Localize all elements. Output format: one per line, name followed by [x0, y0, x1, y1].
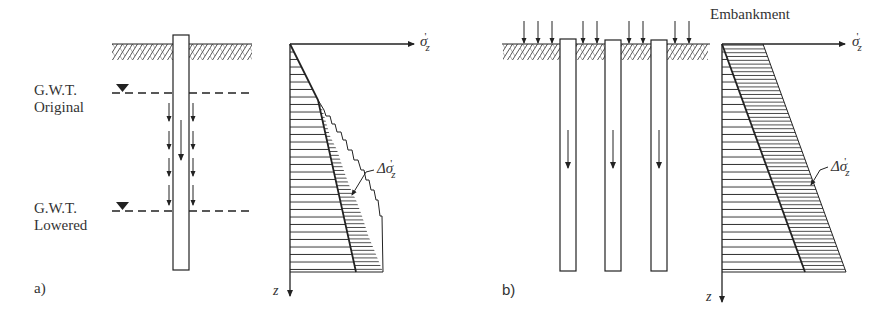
panel-b-label: b) — [502, 281, 515, 298]
sigma-axis-label: σ'z — [420, 33, 430, 51]
soil-hatch-right — [189, 44, 252, 60]
sigma-axis-label: σ'z — [852, 33, 862, 51]
gwt-lowered-label: G.W.T. Lowered — [34, 200, 87, 234]
delta-sigma-label: Δσ'z — [831, 158, 849, 176]
z-axis-label: z — [706, 288, 711, 305]
delta-leader-line — [352, 170, 374, 195]
panel-b-stress-chart — [722, 44, 846, 302]
z-axis-label: z — [273, 282, 278, 299]
initial-stress-region — [290, 44, 356, 272]
pile-settlement-arrows — [568, 130, 659, 168]
panel-a-soil-profile — [112, 35, 252, 270]
embankment-label: Embankment — [710, 6, 790, 23]
gwt-original-label: G.W.T. Original — [34, 82, 84, 116]
diagram-canvas — [0, 0, 886, 319]
water-table-triangle-icon — [116, 202, 129, 210]
panel-b-soil-profile — [502, 21, 710, 271]
delta-sigma-label: Δσ'z — [377, 160, 395, 178]
panel-a-label: a) — [34, 280, 46, 297]
soil-hatch-left — [112, 44, 173, 60]
water-table-triangle-icon — [116, 84, 129, 92]
